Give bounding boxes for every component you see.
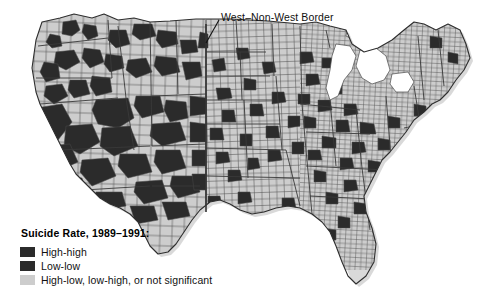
legend-swatch-not-significant: [20, 275, 35, 285]
legend-item-not-significant: High-low, low-high, or not significant: [20, 273, 260, 287]
legend-label-high-high: High-high: [41, 246, 87, 258]
figure-container: West–Non-West Border Suicide Rate, 1989–…: [0, 0, 491, 305]
legend-item-low-low: Low-low: [20, 259, 260, 273]
west-nonwest-border-label: West–Non-West Border: [221, 11, 334, 23]
legend-label-not-significant: High-low, low-high, or not significant: [41, 274, 212, 286]
legend-swatch-high-high: [20, 247, 35, 257]
legend-swatch-low-low: [20, 261, 35, 271]
legend-item-high-high: High-high: [20, 245, 260, 259]
legend-title: Suicide Rate, 1989–1991:: [21, 227, 260, 239]
legend-label-low-low: Low-low: [41, 260, 80, 272]
map-legend: Suicide Rate, 1989–1991: High-high Low-l…: [20, 227, 260, 287]
